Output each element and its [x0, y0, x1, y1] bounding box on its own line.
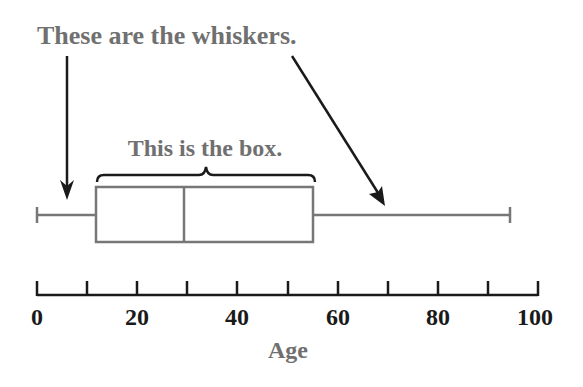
- box-plot-diagram: These are the whiskers. This is the box.: [0, 0, 583, 387]
- tick-label: 80: [426, 304, 450, 330]
- x-axis: [37, 281, 538, 296]
- x-axis-label: Age: [268, 337, 308, 363]
- tick-label: 100: [517, 304, 553, 330]
- tick-label: 60: [326, 304, 350, 330]
- whiskers-label: These are the whiskers.: [37, 21, 297, 50]
- box-brace-icon: [97, 167, 315, 182]
- tick-labels: 0 20 40 60 80 100: [31, 304, 553, 330]
- box-label: This is the box.: [128, 135, 283, 161]
- tick-label: 0: [31, 304, 43, 330]
- right-whisker-arrow-icon: [292, 56, 385, 206]
- diagram-canvas: These are the whiskers. This is the box.: [0, 0, 583, 387]
- box-plot: [37, 187, 510, 242]
- left-whisker-arrow-icon: [60, 56, 74, 200]
- tick-label: 20: [125, 304, 149, 330]
- iqr-box: [96, 187, 313, 242]
- tick-label: 40: [225, 304, 249, 330]
